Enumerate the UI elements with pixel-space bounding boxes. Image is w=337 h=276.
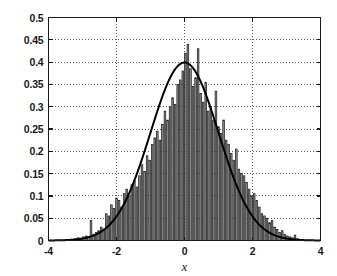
y-tick-label: 0.35 — [24, 78, 44, 90]
y-tick-label: 0.5 — [30, 12, 44, 24]
x-tick-label: -2 — [112, 245, 121, 257]
figure-container: 00.050.10.150.20.250.30.350.40.450.5 -4-… — [0, 0, 337, 276]
y-tick-label: 0.2 — [30, 145, 44, 157]
y-tick-label: 0.3 — [30, 101, 44, 113]
y-tick-label: 0.15 — [24, 168, 44, 180]
x-tick-label: 2 — [250, 245, 256, 257]
chart-canvas — [0, 0, 337, 276]
y-tick-label: 0.05 — [24, 212, 44, 224]
y-tick-label: 0.25 — [24, 123, 44, 135]
x-axis-label: x — [182, 259, 188, 275]
x-tick-label: -4 — [44, 245, 53, 257]
histogram-bars-group — [75, 44, 299, 240]
y-tick-label: 0.45 — [24, 34, 44, 46]
y-tick-label: 0 — [38, 235, 44, 247]
x-tick-label: 0 — [182, 245, 188, 257]
x-tick-label: 4 — [318, 245, 324, 257]
y-tick-label: 0.1 — [30, 190, 44, 202]
y-tick-label: 0.4 — [30, 56, 44, 68]
